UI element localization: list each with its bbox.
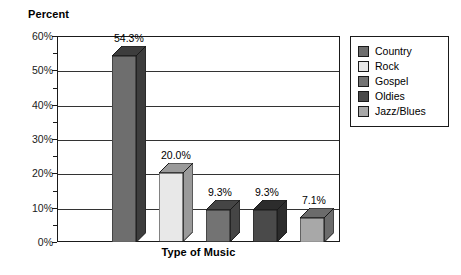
y-tick-label: 40% <box>7 100 53 110</box>
bar <box>300 208 334 242</box>
legend-swatch <box>358 46 369 57</box>
y-axis-title: Percent <box>28 8 69 20</box>
bar-3d-faces <box>300 208 334 242</box>
y-tick-label: 50% <box>7 65 53 75</box>
y-tick-label: 30% <box>7 134 53 144</box>
bar-value-label: 20.0% <box>161 150 191 161</box>
bar-value-label: 54.3% <box>114 33 144 44</box>
bar <box>112 46 146 242</box>
legend: CountryRockGospelOldiesJazz/Blues <box>350 36 449 127</box>
legend-swatch <box>358 91 369 102</box>
legend-label: Gospel <box>375 76 408 87</box>
y-tick-label: 0% <box>7 237 53 247</box>
y-axis-tick-labels: 0%10%20%30%40%50%60% <box>4 36 53 242</box>
bar <box>159 163 193 242</box>
bar-value-label: 9.3% <box>208 187 232 198</box>
legend-item: Gospel <box>358 74 442 89</box>
legend-label: Oldies <box>375 91 405 102</box>
legend-label: Country <box>375 46 412 57</box>
y-tick-label: 10% <box>7 203 53 213</box>
legend-swatch <box>358 106 369 117</box>
legend-swatch <box>358 61 369 72</box>
bar-3d-faces <box>159 163 193 242</box>
y-tick-label: 20% <box>7 168 53 178</box>
bar-3d-faces <box>112 46 146 242</box>
legend-label: Rock <box>375 61 399 72</box>
bar <box>253 200 287 242</box>
legend-item: Jazz/Blues <box>358 104 442 119</box>
legend-item: Rock <box>358 59 442 74</box>
bar-3d-faces <box>206 200 240 242</box>
legend-item: Oldies <box>358 89 442 104</box>
legend-item: Country <box>358 44 442 59</box>
bar-3d-faces <box>253 200 287 242</box>
y-tick-label: 60% <box>7 31 53 41</box>
bar-value-label: 7.1% <box>302 195 326 206</box>
bar <box>206 200 240 242</box>
bar-value-label: 9.3% <box>255 187 279 198</box>
bar-series: 54.3%20.0%9.3%9.3%7.1% <box>57 36 340 242</box>
legend-swatch <box>358 76 369 87</box>
legend-label: Jazz/Blues <box>375 106 426 117</box>
bar-chart: Percent 0%10%20%30%40%50%60% 54.3%20.0%9… <box>0 0 461 275</box>
x-axis-label: Type of Music <box>57 246 340 258</box>
